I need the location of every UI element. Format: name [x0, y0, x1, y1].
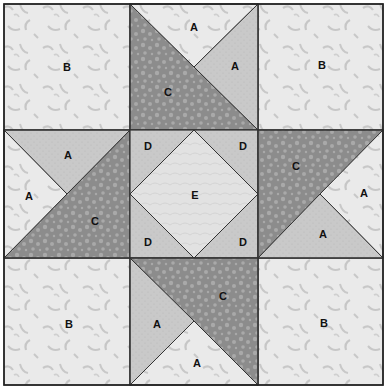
- label-c-bottom-middle: C: [219, 290, 227, 302]
- label-c-top-middle: C: [164, 86, 172, 98]
- label-b-bottom-left: B: [65, 318, 73, 330]
- label-b-top-left: B: [63, 61, 71, 73]
- label-d-center-bottom-left: D: [144, 236, 152, 248]
- label-a-top-middle-top: A: [190, 21, 198, 33]
- quilt-block-diagram: B B B B A A C A A C D D D D E: [0, 0, 385, 388]
- label-a-middle-right-right: A: [360, 187, 368, 199]
- label-a-middle-right-bottom: A: [319, 228, 327, 240]
- unit-center: D D D D E: [130, 130, 258, 258]
- label-c-middle-right: C: [292, 160, 300, 172]
- corner-square-top-right: B: [258, 4, 383, 130]
- unit-top-middle: A A C: [130, 4, 258, 130]
- label-e-center: E: [191, 189, 198, 201]
- corner-square-bottom-right: B: [258, 258, 383, 385]
- label-d-center-bottom-right: D: [239, 236, 247, 248]
- unit-bottom-middle: C A A: [130, 258, 258, 385]
- label-d-center-top-right: D: [239, 140, 247, 152]
- unit-middle-right: C A A: [258, 130, 383, 258]
- label-a-bottom-middle-bottom: A: [193, 357, 201, 369]
- corner-square-top-left: B: [4, 4, 130, 130]
- label-a-bottom-middle-left: A: [153, 318, 161, 330]
- label-c-middle-left: C: [91, 215, 99, 227]
- label-b-top-right: B: [318, 59, 326, 71]
- label-b-bottom-right: B: [320, 317, 328, 329]
- label-a-middle-left-top: A: [64, 149, 72, 161]
- label-a-middle-left-left: A: [25, 190, 33, 202]
- corner-square-bottom-left: B: [4, 258, 130, 385]
- label-a-top-middle-right: A: [231, 60, 239, 72]
- unit-middle-left: A A C: [4, 130, 130, 258]
- label-d-center-top-left: D: [144, 140, 152, 152]
